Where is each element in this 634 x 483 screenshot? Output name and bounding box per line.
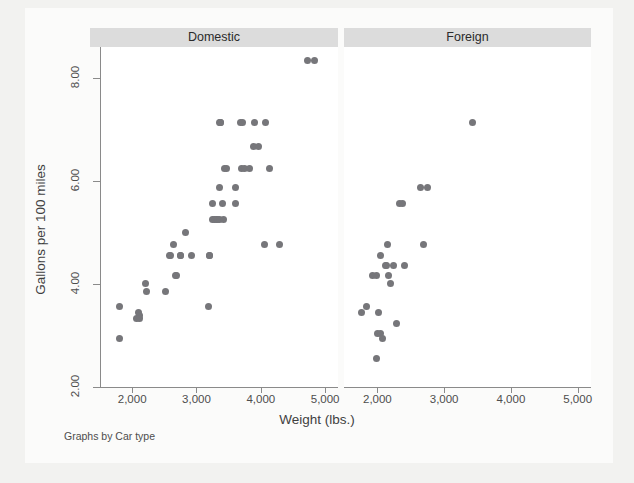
data-point bbox=[182, 229, 189, 236]
data-point bbox=[373, 355, 380, 362]
data-point bbox=[379, 335, 386, 342]
data-point bbox=[246, 165, 253, 172]
y-axis-line bbox=[100, 47, 101, 387]
data-point bbox=[136, 315, 143, 322]
chart-screenshot: Domestic Foreign 2.004.006.008.00 2,0003… bbox=[0, 0, 634, 483]
data-point bbox=[232, 184, 239, 191]
x-axis-title: Weight (lbs.) bbox=[0, 412, 634, 427]
graph-caption: Graphs by Car type bbox=[64, 430, 155, 442]
data-point bbox=[232, 200, 239, 207]
x-tick-label: 3,000 bbox=[166, 393, 226, 405]
panel-header-foreign: Foreign bbox=[344, 28, 591, 47]
x-tick-label: 5,000 bbox=[548, 393, 608, 405]
y-tick-label-text: 8.00 bbox=[69, 62, 81, 92]
y-tick-label: 4.00 bbox=[60, 277, 90, 291]
y-tick-mark bbox=[93, 78, 100, 79]
x-tick-label: 3,000 bbox=[414, 393, 474, 405]
data-point bbox=[173, 272, 180, 279]
data-point bbox=[239, 119, 246, 126]
data-point bbox=[375, 309, 382, 316]
y-tick-label-text: 6.00 bbox=[69, 165, 81, 195]
data-point bbox=[358, 309, 365, 316]
x-tick-label: 2,000 bbox=[102, 393, 162, 405]
data-point bbox=[216, 184, 223, 191]
y-tick-mark bbox=[93, 387, 100, 388]
data-point bbox=[266, 165, 273, 172]
x-tick-label: 2,000 bbox=[347, 393, 407, 405]
data-point bbox=[205, 303, 212, 310]
data-point bbox=[393, 320, 400, 327]
panel-header-domestic: Domestic bbox=[90, 28, 338, 47]
data-point bbox=[116, 335, 123, 342]
x-axis-line-domestic bbox=[100, 387, 338, 388]
x-axis-line-foreign bbox=[344, 387, 591, 388]
y-tick-label: 8.00 bbox=[60, 71, 90, 85]
data-point bbox=[116, 303, 123, 310]
y-tick-mark bbox=[93, 181, 100, 182]
data-point bbox=[424, 184, 431, 191]
data-point bbox=[223, 165, 230, 172]
x-tick-label: 5,000 bbox=[295, 393, 355, 405]
data-point bbox=[251, 119, 258, 126]
data-point bbox=[385, 272, 392, 279]
y-tick-mark bbox=[93, 284, 100, 285]
data-point bbox=[177, 252, 184, 259]
y-tick-label-text: 2.00 bbox=[69, 371, 81, 401]
data-point bbox=[255, 143, 262, 150]
y-tick-label: 2.00 bbox=[60, 380, 90, 394]
data-point bbox=[383, 262, 390, 269]
y-axis-title: Gallons per 100 miles bbox=[33, 150, 48, 310]
data-point bbox=[469, 119, 476, 126]
data-point bbox=[363, 303, 370, 310]
x-tick-label: 4,000 bbox=[481, 393, 541, 405]
data-point bbox=[399, 200, 406, 207]
data-point bbox=[219, 200, 226, 207]
data-point bbox=[373, 272, 380, 279]
data-point bbox=[220, 216, 227, 223]
y-tick-label: 6.00 bbox=[60, 174, 90, 188]
y-axis-title-wrap: Gallons per 100 miles bbox=[30, 150, 50, 310]
x-tick-label: 4,000 bbox=[231, 393, 291, 405]
y-tick-label-text: 4.00 bbox=[69, 268, 81, 298]
